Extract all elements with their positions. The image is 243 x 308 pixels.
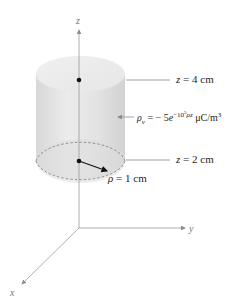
y-axis-label: y xyxy=(189,224,193,234)
radius-eq: = xyxy=(116,172,122,184)
radius-label: ρ = 1 cm xyxy=(108,173,147,184)
radius-var: ρ xyxy=(108,172,113,184)
units-power: 3 xyxy=(218,111,222,119)
x-axis xyxy=(22,228,79,284)
radius-value: 1 cm xyxy=(125,172,147,184)
cylinder xyxy=(36,56,125,183)
bottom-plane-label: z = 2 cm xyxy=(176,154,214,165)
bottom-plane-eq: = xyxy=(183,153,189,165)
charge-density-eq: = − 5 xyxy=(147,112,168,123)
top-center-dot xyxy=(77,78,82,83)
x-axis-label: x xyxy=(10,288,14,298)
top-plane-var: z xyxy=(176,73,180,85)
bottom-plane-value: 2 cm xyxy=(192,153,214,165)
bottom-plane-var: z xyxy=(176,153,180,165)
cylinder-top-face xyxy=(36,56,125,92)
z-axis-label: z xyxy=(76,16,80,26)
rho-subscript: v xyxy=(142,118,145,126)
top-plane-label: z = 4 cm xyxy=(176,74,214,85)
top-plane-value: 4 cm xyxy=(192,73,214,85)
charge-density-units: μC/m xyxy=(193,112,218,123)
top-plane-eq: = xyxy=(183,73,189,85)
exp-coeff: −10 xyxy=(173,111,184,119)
charge-density-label: ρv = − 5e−105ρz μC/m3 xyxy=(137,110,221,126)
